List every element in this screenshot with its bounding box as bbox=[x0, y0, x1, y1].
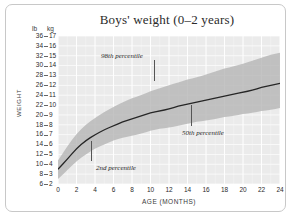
y-tick-lb-24: 24 bbox=[27, 92, 43, 99]
tickmark-lb-20 bbox=[44, 115, 47, 116]
x-axis-label: AGE (MONTHS) bbox=[58, 198, 280, 205]
p98-label-leader-line bbox=[154, 60, 155, 81]
y-tick-lb-10: 10 bbox=[27, 161, 43, 168]
y-tick-lb-16: 16 bbox=[27, 131, 43, 138]
x-tick-18: 18 bbox=[218, 187, 232, 194]
tickmark-lb-28 bbox=[44, 75, 47, 76]
y-tick-lb-28: 28 bbox=[27, 72, 43, 79]
growth-chart-figure: Boys' weight (0–2 years) lb kg WEIGHT AG… bbox=[5, 4, 286, 212]
tickmark-lb-12 bbox=[44, 154, 47, 155]
tickmark-lb-14 bbox=[44, 145, 47, 146]
tickmark-lb-24 bbox=[44, 95, 47, 96]
y-tick-lb-18: 18 bbox=[27, 122, 43, 129]
y-tick-lb-22: 22 bbox=[27, 102, 43, 109]
x-tick-10: 10 bbox=[144, 187, 158, 194]
y-tick-lb-36: 36 bbox=[27, 33, 43, 40]
x-tick-2: 2 bbox=[70, 187, 84, 194]
tickmark-lb-6 bbox=[44, 184, 47, 185]
tickmark-lb-22 bbox=[44, 105, 47, 106]
x-tick-6: 6 bbox=[107, 187, 121, 194]
p98-label: 98th percentile bbox=[101, 52, 143, 60]
x-tick-20: 20 bbox=[236, 187, 250, 194]
tickmark-lb-30 bbox=[44, 66, 47, 67]
x-tick-8: 8 bbox=[125, 187, 139, 194]
page-title: Boys' weight (0–2 years) bbox=[52, 12, 282, 28]
tickmark-lb-32 bbox=[44, 56, 47, 57]
y-tick-lb-14: 14 bbox=[27, 141, 43, 148]
p02-label: 2nd percentile bbox=[96, 164, 136, 172]
y-tick-lb-6: 6 bbox=[27, 181, 43, 188]
p50-label: 50th percentile bbox=[182, 129, 224, 137]
tickmark-lb-36 bbox=[44, 36, 47, 37]
x-tick-14: 14 bbox=[181, 187, 195, 194]
tickmark-lb-34 bbox=[44, 46, 47, 47]
x-tick-16: 16 bbox=[199, 187, 213, 194]
tickmark-lb-10 bbox=[44, 164, 47, 165]
y-tick-lb-8: 8 bbox=[27, 171, 43, 178]
unit-label-lb: lb bbox=[32, 25, 37, 32]
unit-label-kg: kg bbox=[47, 25, 54, 32]
x-tick-0: 0 bbox=[51, 187, 65, 194]
tickmark-lb-8 bbox=[44, 174, 47, 175]
plot-area bbox=[58, 36, 280, 184]
x-tick-4: 4 bbox=[88, 187, 102, 194]
p50-label-leader-line bbox=[191, 105, 192, 126]
y-tick-lb-34: 34 bbox=[27, 43, 43, 50]
x-tick-12: 12 bbox=[162, 187, 176, 194]
tickmark-lb-26 bbox=[44, 85, 47, 86]
y-tick-lb-32: 32 bbox=[27, 53, 43, 60]
x-tick-22: 22 bbox=[255, 187, 269, 194]
y-tick-lb-30: 30 bbox=[27, 62, 43, 69]
y-tick-lb-26: 26 bbox=[27, 82, 43, 89]
p02-label-leader-line bbox=[91, 141, 92, 161]
x-tick-24: 24 bbox=[273, 187, 287, 194]
tickmark-lb-16 bbox=[44, 135, 47, 136]
y-tick-lb-20: 20 bbox=[27, 112, 43, 119]
y-axis-label: WEIGHT bbox=[16, 76, 22, 130]
chart-svg bbox=[58, 36, 280, 184]
tickmark-lb-18 bbox=[44, 125, 47, 126]
y-tick-lb-12: 12 bbox=[27, 151, 43, 158]
